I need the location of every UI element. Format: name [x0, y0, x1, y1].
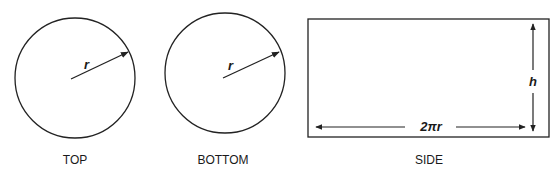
- top-circle-group: r TOP: [15, 18, 135, 167]
- width-label: 2πr: [419, 119, 442, 134]
- top-radius-arrow: [71, 52, 128, 79]
- height-label: h: [529, 74, 537, 89]
- side-caption: SIDE: [415, 153, 443, 167]
- side-rectangle-group: 2πr h SIDE: [308, 19, 549, 167]
- top-circle: [15, 18, 135, 138]
- bottom-caption: BOTTOM: [197, 153, 248, 167]
- bottom-radius-label: r: [228, 58, 234, 73]
- cylinder-net-diagram: r TOP r BOTTOM 2πr h SIDE: [0, 0, 558, 179]
- top-caption: TOP: [63, 153, 87, 167]
- bottom-circle: [165, 13, 285, 133]
- bottom-circle-group: r BOTTOM: [165, 13, 285, 167]
